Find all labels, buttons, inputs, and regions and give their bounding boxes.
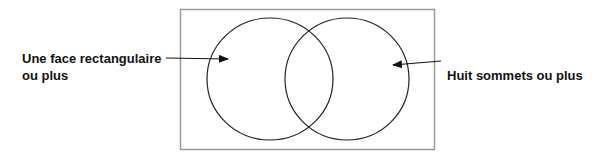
left-set-label: Une face rectangulaire ou plus: [22, 50, 161, 84]
left-set-label-line2: ou plus: [22, 67, 161, 84]
left-set-label-line1: Une face rectangulaire: [22, 50, 161, 67]
left-circle: [207, 18, 333, 140]
right-circle: [285, 18, 409, 140]
left-arrow: [166, 58, 228, 59]
right-set-label: Huit sommets ou plus: [447, 67, 583, 84]
